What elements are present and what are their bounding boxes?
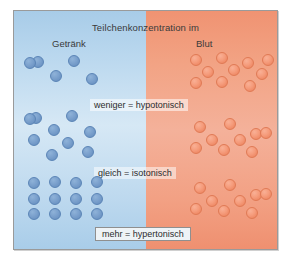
- diagram-frame: Teilchenkonzentration im Getränk Blut we…: [13, 10, 278, 250]
- blood-label: Blut: [196, 38, 212, 49]
- caption-isotonic: gleich = isotonisch: [94, 167, 176, 179]
- drink-label: Getränk: [52, 38, 86, 49]
- caption-hypotonic: weniger = hypotonisch: [90, 99, 188, 111]
- diagram-title: Teilchenkonzentration im: [14, 22, 277, 33]
- caption-hypertonic: mehr = hypertonisch: [95, 227, 191, 241]
- osmolarity-diagram: Teilchenkonzentration im Getränk Blut we…: [0, 0, 290, 265]
